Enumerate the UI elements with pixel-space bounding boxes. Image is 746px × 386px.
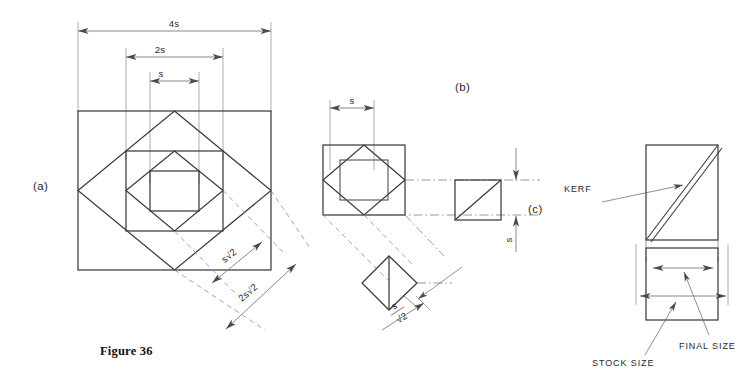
part-b-label: (b)	[455, 81, 470, 93]
part-c-label: (c)	[528, 203, 543, 215]
part-c-final-size-label: FINAL SIZE	[679, 341, 736, 351]
part-c-stock-size-label: STOCK SIZE	[592, 358, 654, 368]
page-background	[0, 0, 746, 386]
dimension-s-label: s	[158, 68, 163, 79]
part-c-kerf-label: KERF	[564, 184, 592, 194]
part-a-label: (a)	[33, 180, 48, 192]
part-b-dimension-s-right-label: s	[503, 237, 514, 242]
dimension-2s-label: 2s	[155, 44, 166, 55]
figure-caption: Figure 36	[100, 344, 153, 358]
dimension-4s-label: 4s	[169, 18, 180, 29]
part-b-dimension-s-label: s	[349, 95, 354, 106]
figure-36-diagram: 4s 2s s s√2	[0, 0, 746, 386]
